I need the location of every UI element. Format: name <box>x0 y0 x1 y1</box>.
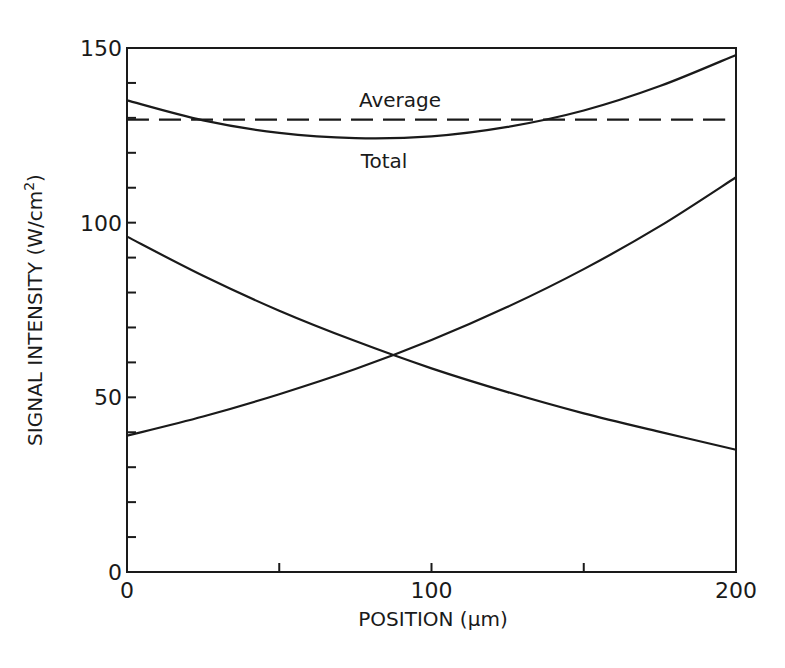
y-axis-title-close: ) <box>23 174 47 182</box>
y-tick-label: 100 <box>80 211 122 236</box>
plot-frame <box>127 48 736 572</box>
y-axis-title-main: SIGNAL INTENSITY (W/cm <box>23 191 47 446</box>
annotation-average: Average <box>359 88 441 112</box>
series-line-backward-signal-increasing <box>127 177 736 436</box>
annotation-total: Total <box>360 149 408 173</box>
x-axis-title: POSITION (µm) <box>358 607 507 631</box>
series-layer <box>127 55 736 450</box>
series-line-forward-signal-decreasing <box>127 237 736 450</box>
y-axis-title-superscript: 2 <box>21 182 37 191</box>
y-axis-title: SIGNAL INTENSITY (W/cm2) <box>21 174 47 446</box>
chart-figure: 0501001500100200 POSITION (µm) SIGNAL IN… <box>0 0 785 668</box>
x-tick-label: 200 <box>715 578 757 603</box>
x-tick-label: 0 <box>120 578 134 603</box>
y-tick-label: 50 <box>94 385 122 410</box>
axes: 0501001500100200 <box>80 36 757 603</box>
x-tick-label: 100 <box>411 578 453 603</box>
labels: POSITION (µm) SIGNAL INTENSITY (W/cm2) A… <box>21 88 508 631</box>
y-tick-label: 150 <box>80 36 122 61</box>
